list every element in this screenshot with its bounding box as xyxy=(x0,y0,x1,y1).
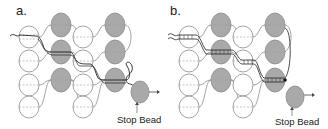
white-beads-col1 xyxy=(19,26,39,118)
peyote-bead-diagram-b xyxy=(164,0,328,129)
grey-beads-col2 xyxy=(51,13,71,92)
stop-bead-a xyxy=(131,81,149,103)
white-beads-col3 xyxy=(73,26,93,118)
panel-a: a. xyxy=(0,0,164,129)
knot-icon xyxy=(283,78,287,82)
peyote-bead-diagram-a xyxy=(0,0,164,129)
stop-bead-label-a: Stop Bead xyxy=(117,114,161,125)
stop-bead-label-b: Stop Bead xyxy=(275,116,319,127)
panel-b: b. xyxy=(164,0,328,129)
stop-bead-b xyxy=(286,86,304,108)
